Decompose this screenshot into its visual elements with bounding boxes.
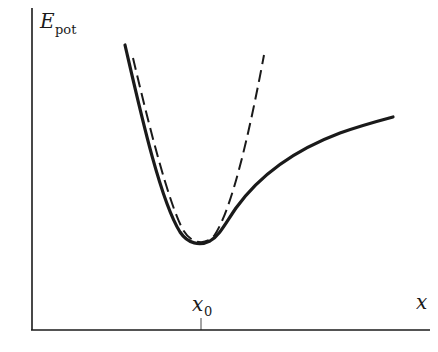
x-axis-label: x — [416, 290, 427, 314]
y-axis-label: E — [39, 9, 55, 33]
x0-label: x — [192, 292, 203, 316]
potential-energy-diagram: E pot x 0 x — [0, 0, 438, 352]
x0-label-subscript: 0 — [204, 304, 212, 319]
y-axis-label-subscript: pot — [55, 22, 77, 37]
harmonic-approximation-curve — [133, 55, 264, 242]
potential-curve — [125, 45, 393, 244]
